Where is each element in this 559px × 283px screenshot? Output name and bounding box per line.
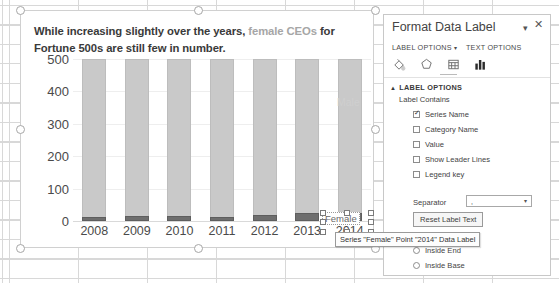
chart-title-part-2: female CEOs [248,25,317,37]
chart-resize-handle[interactable] [194,6,203,15]
y-tick: 400 [29,84,69,99]
checkbox-show-leader-lines[interactable]: Show Leader Lines [413,155,490,164]
bar-segment-male[interactable] [338,59,362,213]
checkbox-label: Value [425,140,444,149]
checkbox-label: Legend key [425,170,464,179]
series-label-male[interactable]: Male [337,96,360,108]
chart-title[interactable]: While increasing slightly over the years… [34,23,364,57]
bar-column[interactable] [82,59,106,221]
separator-dropdown[interactable]: , ▾ [466,195,532,207]
tab-label-options[interactable]: LABEL OPTIONS▾ [392,43,457,52]
pane-tabs[interactable]: LABEL OPTIONS▾ TEXT OPTIONS [392,43,522,52]
resize-handle[interactable] [320,219,326,225]
resize-handle[interactable] [320,210,326,216]
collapse-triangle-icon[interactable]: ▲ [390,85,396,91]
x-tick: 2012 [243,224,286,238]
data-label-tooltip: Series "Female" Point "2014" Data Label [335,232,480,247]
radio-inside-base[interactable]: Inside Base [413,261,465,270]
bar-column[interactable] [295,59,319,221]
y-tick: 300 [29,116,69,131]
chevron-down-icon[interactable]: ▾ [523,23,528,33]
checkbox-series-name[interactable]: Series Name [413,110,469,119]
label-contains-title: Label Contains [399,95,450,104]
bar-column[interactable] [338,59,362,221]
bar-segment-male[interactable] [167,59,191,216]
bar-segment-male[interactable] [210,59,234,217]
x-tick: 2010 [158,224,201,238]
radio-label: Inside End [425,246,461,255]
section-header-text: LABEL OPTIONS [399,83,462,92]
chart-resize-handle[interactable] [16,125,25,134]
separator-value: , [471,198,473,205]
x-tick: 2011 [201,224,244,238]
bar-column[interactable] [253,59,277,221]
tab-text-options[interactable]: TEXT OPTIONS [466,43,522,52]
tab-label-options-text: LABEL OPTIONS [392,43,452,52]
y-tick: 500 [29,52,69,67]
bar-column[interactable] [210,59,234,221]
radio-inside-end[interactable]: Inside End [413,246,461,255]
radio-box[interactable] [413,247,420,254]
fill-icon[interactable] [392,57,407,72]
section-header-label-options[interactable]: ▲LABEL OPTIONS [390,83,462,92]
checkbox-label: Category Name [425,125,478,134]
checkbox-box[interactable] [413,171,420,178]
bar-segment-female[interactable] [167,216,191,221]
y-axis: 0 100 200 300 400 500 [29,59,69,221]
effects-icon[interactable] [419,57,434,72]
y-tick: 0 [29,214,69,229]
pane-divider [384,77,550,78]
size-and-properties-icon[interactable] [446,57,461,72]
bar-segment-female[interactable] [210,217,234,221]
bar-segment-male[interactable] [125,59,149,216]
label-options-icon[interactable] [473,57,488,72]
bar-series-group[interactable] [73,59,371,221]
close-icon[interactable]: ✕ [534,19,543,30]
x-axis: 2008200920102011201220132014 [73,224,371,238]
radio-box[interactable] [413,262,420,269]
chart-resize-handle[interactable] [194,244,203,253]
radio-label: Inside Base [425,261,465,270]
pane-title: Format Data Label [392,20,496,34]
checkbox-box[interactable] [413,111,420,118]
plot-area[interactable] [73,59,371,221]
checkbox-category-name[interactable]: Category Name [413,125,478,134]
bar-segment-male[interactable] [82,59,106,217]
checkbox-legend-key[interactable]: Legend key [413,170,464,179]
resize-handle[interactable] [320,229,326,235]
chevron-down-icon[interactable]: ▾ [524,197,527,204]
x-tick: 2008 [73,224,116,238]
resize-handle[interactable] [368,210,374,216]
bar-segment-female[interactable] [82,217,106,221]
checkbox-box[interactable] [413,156,420,163]
checkbox-label: Series Name [425,110,469,119]
resize-handle[interactable] [368,219,374,225]
checkbox-box[interactable] [413,126,420,133]
pane-header: Format Data Label ▾ ✕ [384,15,550,41]
bar-segment-male[interactable] [295,59,319,213]
checkbox-label: Show Leader Lines [425,155,490,164]
chart-resize-handle[interactable] [16,6,25,15]
bar-segment-female[interactable] [295,213,319,221]
bar-segment-male[interactable] [253,59,277,215]
bar-column[interactable] [167,59,191,221]
active-icon-underline [440,74,457,75]
chart-resize-handle[interactable] [371,125,380,134]
resize-handle[interactable] [344,210,350,216]
bar-column[interactable] [125,59,149,221]
chart-resize-handle[interactable] [16,244,25,253]
bar-segment-female[interactable] [253,215,277,221]
pane-icon-row[interactable] [392,57,488,72]
checkbox-box[interactable] [413,141,420,148]
separator-label: Separator [413,198,446,207]
x-tick: 2009 [116,224,159,238]
chart-title-part-1: While increasing slightly over the years… [34,25,248,37]
y-tick: 100 [29,181,69,196]
selected-data-label-female[interactable]: Female [322,212,360,225]
chart-resize-handle[interactable] [371,6,380,15]
reset-label-text-button[interactable]: Reset Label Text [413,212,483,227]
chevron-down-icon[interactable]: ▾ [454,45,457,51]
bar-segment-female[interactable] [125,216,149,221]
y-tick: 200 [29,149,69,164]
checkbox-value[interactable]: Value [413,140,444,149]
